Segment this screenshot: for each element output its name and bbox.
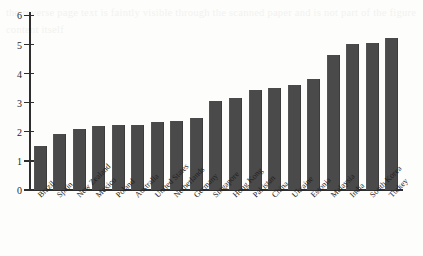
bar-chart-figure: 0123456 BrazilSpainNew ZealandMexicoPola…: [0, 0, 423, 256]
bar: [366, 43, 379, 190]
y-axis-tick-label: 2: [8, 126, 22, 137]
y-axis-tick-label: 5: [8, 39, 22, 50]
bar: [327, 55, 340, 190]
y-axis-tick-label: 4: [8, 68, 22, 79]
bar: [53, 134, 66, 190]
y-axis-tick-label: 6: [8, 10, 22, 21]
bar: [307, 79, 320, 190]
y-axis-tick-label: 1: [8, 155, 22, 166]
y-axis-tick-label: 3: [8, 97, 22, 108]
plot-area: [29, 12, 410, 190]
y-axis-tick-label: 0: [8, 185, 22, 196]
bar: [73, 129, 86, 190]
bar: [288, 85, 301, 190]
bar: [346, 44, 359, 190]
